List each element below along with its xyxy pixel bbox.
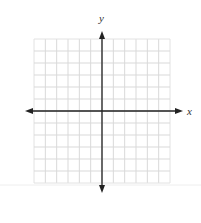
y-axis-label: y [98, 12, 104, 24]
coordinate-plane: x y [0, 0, 201, 223]
axes [25, 31, 183, 193]
y-axis-down-arrow-icon [99, 185, 105, 193]
x-axis-label: x [186, 105, 192, 117]
x-axis-left-arrow-icon [25, 108, 33, 114]
y-axis-up-arrow-icon [99, 31, 105, 39]
x-axis-right-arrow-icon [175, 108, 183, 114]
